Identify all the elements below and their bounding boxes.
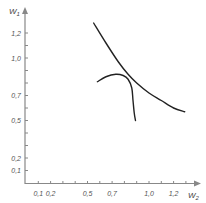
y-tick-label: 1,0 [11,55,21,62]
series [94,23,185,121]
x-tick-label: 0,5 [83,190,93,197]
y-tick-label: 0,2 [11,155,21,162]
y-axis-arrow-icon [22,7,28,14]
x-axis-arrow-icon [194,181,201,187]
x-tick-label: 0,2 [46,190,56,197]
y-axis-title: W1 [9,7,20,17]
series-curve-2 [97,74,135,120]
x-tick-label: 0,1 [33,190,43,197]
x-tick-label: 0,7 [107,190,118,197]
chart: 0,10,20,50,71,01,20,10,20,50,71,01,2 W1 … [0,0,206,203]
ticks [25,33,186,184]
y-tick-label: 0,7 [11,92,22,99]
x-tick-label: 1,0 [144,190,154,197]
x-tick-label: 1,2 [169,190,179,197]
y-tick-label: 0,1 [11,167,21,174]
series-curve-1 [94,23,185,112]
tick-labels: 0,10,20,50,71,01,20,10,20,50,71,01,2 [11,30,178,198]
y-tick-label: 0,5 [11,117,21,124]
y-tick-label: 1,2 [11,30,21,37]
x-axis-title: W2 [188,191,200,201]
axes [22,7,201,187]
